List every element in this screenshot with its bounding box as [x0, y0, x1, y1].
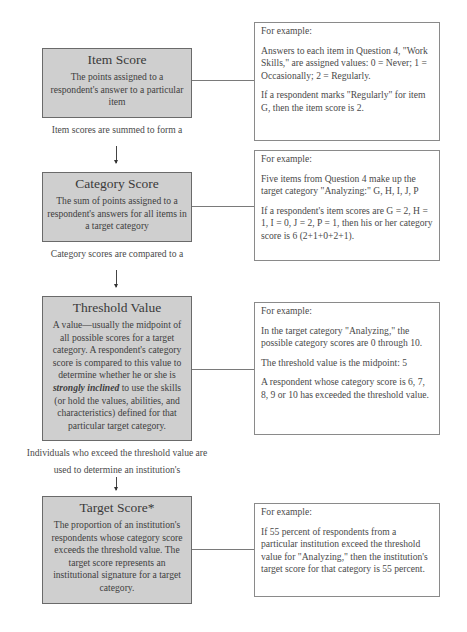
item-score-box: Item Score The points assigned to a resp… [42, 48, 192, 118]
category-score-box: Category Score The sum of points assigne… [42, 172, 192, 242]
example-heading: For example: [261, 25, 434, 38]
threshold-caption-line-1: Individuals who exceed the threshold val… [0, 444, 234, 461]
example-paragraph: A respondent whose category score is 6, … [261, 376, 434, 401]
example-paragraph: Five items from Question 4 make up the t… [261, 173, 434, 198]
target-score-description: The proportion of an institution's respo… [47, 519, 187, 595]
target-score-box: Target Score* The proportion of an insti… [42, 496, 192, 604]
example-paragraph: If a respondent's item scores are G = 2,… [261, 205, 434, 243]
example-heading: For example: [261, 305, 434, 318]
example-heading: For example: [261, 153, 434, 166]
threshold-value-example-box: For example: In the target category "Ana… [254, 302, 440, 435]
target-score-example-box: For example: If 55 percent of respondent… [254, 503, 440, 597]
category-score-example-box: For example: Five items from Question 4 … [254, 150, 440, 261]
down-arrow-icon [116, 477, 117, 490]
description-text: A value—usually the midpoint of all poss… [53, 319, 181, 380]
item-score-connector [192, 80, 254, 81]
item-score-title: Item Score [47, 52, 187, 68]
example-paragraph: In the target category "Analyzing," the … [261, 325, 434, 350]
item-score-example-box: For example: Answers to each item in Que… [254, 22, 440, 141]
example-paragraph: If a respondent marks "Regularly" for it… [261, 89, 434, 114]
example-paragraph: The threshold value is the midpoint: 5 [261, 357, 434, 370]
down-arrow-icon [116, 270, 117, 287]
threshold-value-connector [192, 369, 254, 370]
example-paragraph: If 55 percent of respondents from a part… [261, 526, 434, 576]
emphasis-text: strongly inclined [53, 382, 119, 393]
threshold-value-description: A value—usually the midpoint of all poss… [47, 319, 187, 432]
example-heading: For example: [261, 506, 434, 519]
category-score-caption: Category scores are compared to a [0, 245, 234, 262]
down-arrow-icon [116, 146, 117, 163]
threshold-value-box: Threshold Value A value—usually the midp… [42, 296, 192, 441]
target-score-connector [192, 549, 254, 550]
category-score-description: The sum of points assigned to a responde… [47, 195, 187, 233]
example-paragraph: Answers to each item in Question 4, "Wor… [261, 45, 434, 83]
threshold-value-title: Threshold Value [47, 300, 187, 316]
target-score-title: Target Score* [47, 500, 187, 516]
threshold-caption-line-2: used to determine an institution's [0, 461, 234, 478]
item-score-caption: Item scores are summed to form a [0, 121, 234, 138]
item-score-description: The points assigned to a respondent's an… [47, 71, 187, 109]
category-score-title: Category Score [47, 176, 187, 192]
category-score-connector [192, 206, 254, 207]
